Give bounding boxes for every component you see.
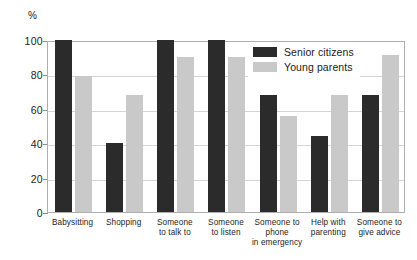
- bar: [75, 76, 92, 212]
- bar: [382, 55, 399, 212]
- bar: [55, 40, 72, 212]
- y-axis-tick-label: 60: [3, 104, 43, 116]
- bar-group: [201, 42, 252, 212]
- bar-chart: % 020406080100 BabysittingShoppingSomeon…: [0, 0, 417, 260]
- chart-legend: Senior citizensYoung parents: [248, 42, 360, 77]
- legend-swatch-icon: [253, 62, 277, 72]
- y-axis-tick-mark: [43, 213, 48, 214]
- bar: [106, 143, 123, 212]
- bar-group: [48, 42, 99, 212]
- bar-group: [355, 42, 406, 212]
- bar: [362, 95, 379, 212]
- bar: [228, 57, 245, 212]
- bar-group: [99, 42, 150, 212]
- y-axis-tick-label: 40: [3, 138, 43, 150]
- bar: [208, 40, 225, 212]
- bar: [280, 116, 297, 212]
- y-axis-tick-label: 20: [3, 173, 43, 185]
- bar: [177, 57, 194, 212]
- y-axis-tick-label: 80: [3, 69, 43, 81]
- bar: [157, 40, 174, 212]
- legend-item: Young parents: [253, 61, 354, 73]
- legend-item: Senior citizens: [253, 46, 354, 58]
- bar: [260, 95, 277, 212]
- legend-label: Young parents: [284, 61, 353, 73]
- legend-swatch-icon: [253, 47, 277, 57]
- bar-group: [150, 42, 201, 212]
- bar: [311, 136, 328, 212]
- y-axis-tick-label: 0: [3, 207, 43, 219]
- legend-label: Senior citizens: [284, 46, 354, 58]
- y-axis-tick-label: 100: [3, 35, 43, 47]
- bar: [331, 95, 348, 212]
- bar: [126, 95, 143, 212]
- y-axis-unit-label: %: [28, 10, 37, 21]
- x-axis-category-label: Someone togive advice: [348, 218, 411, 238]
